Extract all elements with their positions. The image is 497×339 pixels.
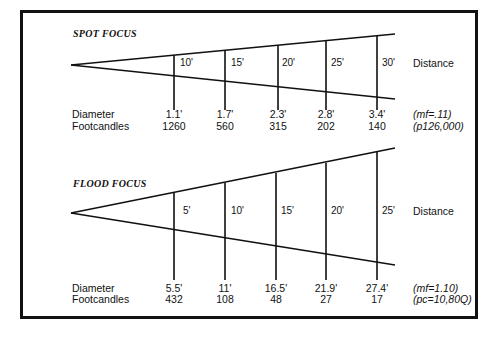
- spot-diameter-4: 3.4': [357, 108, 397, 120]
- spot-footcandles-label: Footcandles: [72, 120, 129, 132]
- flood-beam-lower-edge: [71, 213, 395, 265]
- spot-beam-lower-edge: [71, 65, 395, 99]
- spot-diameter-1: 1.7': [205, 108, 245, 120]
- flood-footcandles-0: 432: [154, 293, 194, 305]
- spot-footcandles-0: 1260: [154, 120, 194, 132]
- flood-distance-label: Distance: [413, 205, 454, 217]
- flood-footcandles-3: 27: [306, 293, 346, 305]
- flood-footcandles-2: 48: [256, 293, 296, 305]
- spot-distance-0: 10': [180, 57, 193, 68]
- spot-distance-4: 30': [382, 57, 395, 68]
- spot-diameter-label: Diameter: [72, 108, 115, 120]
- flood-distance-1: 10': [231, 205, 244, 216]
- flood-footcandles-4: 17: [357, 293, 397, 305]
- flood-distance-4: 25': [382, 205, 395, 216]
- spot-footcandles-1: 560: [205, 120, 245, 132]
- spot-diameter-2: 2.3': [258, 108, 298, 120]
- spot-diameter-3: 2.8': [306, 108, 346, 120]
- flood-title: FLOOD FOCUS: [73, 178, 147, 189]
- spot-footcandles-3: 202: [306, 120, 346, 132]
- flood-note-pc: (pc=10,80Q): [413, 293, 472, 305]
- flood-distance-3: 20': [331, 205, 344, 216]
- spot-footcandles-2: 315: [258, 120, 298, 132]
- spot-note-pc: (p126,000): [413, 120, 464, 132]
- spot-distance-2: 20': [282, 57, 295, 68]
- flood-footcandles-label: Footcandles: [72, 293, 129, 305]
- spot-note-mf: (mf=.11): [413, 108, 452, 120]
- spot-diameter-0: 1.1': [154, 108, 194, 120]
- spot-distance-3: 25': [331, 57, 344, 68]
- spot-distance-1: 15': [231, 57, 244, 68]
- flood-distance-2: 15': [281, 205, 294, 216]
- spot-distance-label: Distance: [413, 57, 454, 69]
- flood-distance-0: 5': [183, 205, 190, 216]
- flood-footcandles-1: 108: [205, 293, 245, 305]
- spot-title: SPOT FOCUS: [73, 28, 137, 39]
- spot-footcandles-4: 140: [357, 120, 397, 132]
